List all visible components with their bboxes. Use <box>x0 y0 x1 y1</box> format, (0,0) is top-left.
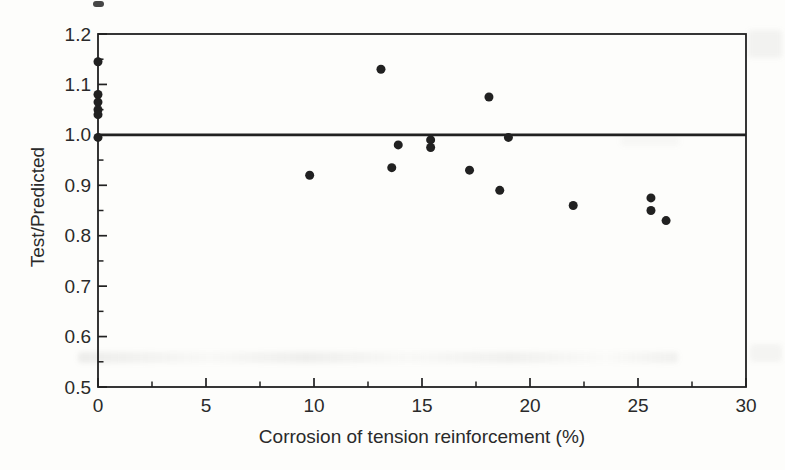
y-tick-label: 0.6 <box>65 326 91 347</box>
y-tick-label: 1.2 <box>65 24 91 45</box>
x-tick-label: 10 <box>303 395 324 416</box>
data-point <box>504 133 513 142</box>
data-point <box>662 216 671 225</box>
y-tick-label: 0.9 <box>65 175 91 196</box>
data-point <box>305 171 314 180</box>
data-point <box>484 93 493 102</box>
data-point <box>394 140 403 149</box>
data-point <box>465 166 474 175</box>
x-tick-label: 30 <box>735 395 756 416</box>
y-axis-title: Test/Predicted <box>27 147 48 267</box>
data-point <box>646 206 655 215</box>
x-tick-label: 0 <box>93 395 104 416</box>
y-tick-label: 0.8 <box>65 225 91 246</box>
data-point <box>569 201 578 210</box>
data-point <box>646 193 655 202</box>
data-point <box>387 163 396 172</box>
y-tick-label: 0.7 <box>65 276 91 297</box>
data-point <box>94 57 103 66</box>
x-axis-title: Corrosion of tension reinforcement (%) <box>259 426 585 447</box>
x-tick-label: 25 <box>627 395 648 416</box>
data-point <box>94 133 103 142</box>
y-tick-label: 1.1 <box>65 74 91 95</box>
y-tick-label: 0.5 <box>65 377 91 398</box>
x-tick-label: 15 <box>411 395 432 416</box>
data-point <box>495 186 504 195</box>
data-point <box>94 110 103 119</box>
x-tick-label: 20 <box>519 395 540 416</box>
x-tick-label: 5 <box>201 395 212 416</box>
figure-page: 0510152025300.50.60.70.80.91.01.11.2 Cor… <box>0 0 785 470</box>
y-tick-label: 1.0 <box>65 124 91 145</box>
data-point <box>426 143 435 152</box>
scatter-plot: 0510152025300.50.60.70.80.91.01.11.2 Cor… <box>0 0 785 470</box>
data-point <box>376 65 385 74</box>
